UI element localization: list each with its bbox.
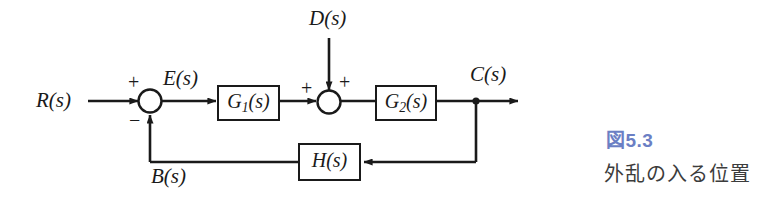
caption-title: 外乱の入る位置 — [604, 163, 751, 186]
block-label-g1: G1(s) — [218, 91, 279, 114]
block-label-g1-tail: (s) — [249, 90, 270, 112]
block-label-h-tail: (s) — [326, 149, 347, 171]
block-label-g2-main: G — [385, 90, 399, 112]
block-label-h: H(s) — [299, 150, 360, 170]
label-feedback-signal: B(s) — [151, 166, 186, 187]
block-label-g2: G2(s) — [376, 91, 436, 114]
summing-junction-1 — [139, 90, 162, 113]
block-label-g2-tail: (s) — [406, 90, 427, 112]
block-label-g1-subscript: 1 — [242, 100, 249, 115]
label-output: C(s) — [470, 64, 506, 85]
label-reference-input: R(s) — [36, 90, 71, 111]
figure-root: R(s) E(s) D(s) C(s) B(s) + − + + G1(s) G… — [0, 0, 781, 201]
sign-plus-sum2-top-right: + — [339, 72, 350, 92]
label-disturbance: D(s) — [309, 8, 346, 29]
sign-plus-sum1: + — [128, 72, 139, 92]
sign-plus-sum2-left: + — [301, 78, 312, 98]
block-label-h-main: H — [312, 149, 326, 171]
sign-minus-sum1: − — [129, 110, 140, 130]
block-label-g1-main: G — [227, 90, 241, 112]
summing-junction-2 — [318, 91, 341, 114]
caption-figure-number: 図5.3 — [606, 131, 653, 152]
label-error-signal: E(s) — [163, 68, 198, 89]
